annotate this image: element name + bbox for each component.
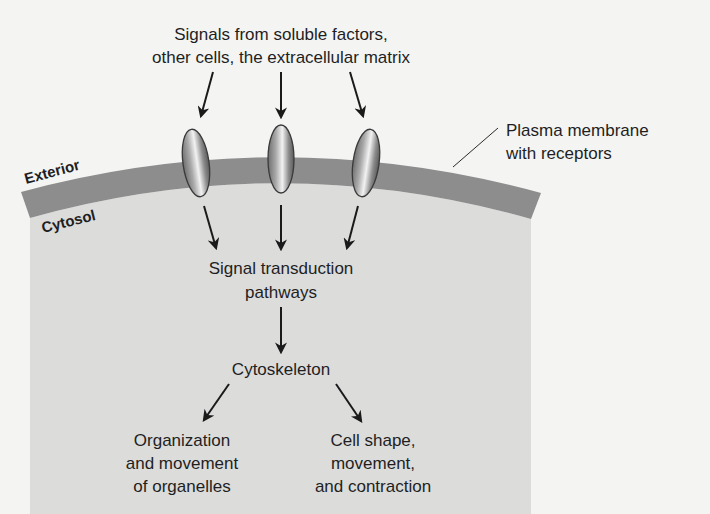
membrane-label-line1: Plasma membrane [506,121,649,140]
signals-label-line2: other cells, the extracellular matrix [152,48,410,67]
signals-label-line1: Signals from soluble factors, [174,25,388,44]
transduction-label-line1: Signal transduction [209,259,354,278]
receptor-middle [268,125,294,193]
diagram-canvas: Signals from soluble factors, other cell… [0,0,710,514]
membrane-label-line2: with receptors [505,144,612,163]
signaling-diagram: Signals from soluble factors, other cell… [0,0,710,514]
cytoskeleton-label: Cytoskeleton [232,360,330,379]
cellshape-label-line1: Cell shape, [330,431,415,450]
cellshape-label-line2: movement, [331,454,415,473]
organelles-label-line2: and movement [126,454,239,473]
organelles-label-line1: Organization [134,431,230,450]
membrane-leader-line [453,128,498,167]
cellshape-label-line3: and contraction [315,477,431,496]
organelles-label-line3: of organelles [133,477,230,496]
arrow-signal-right [350,72,363,116]
arrow-signal-left [201,72,213,116]
transduction-label-line2: pathways [245,283,317,302]
